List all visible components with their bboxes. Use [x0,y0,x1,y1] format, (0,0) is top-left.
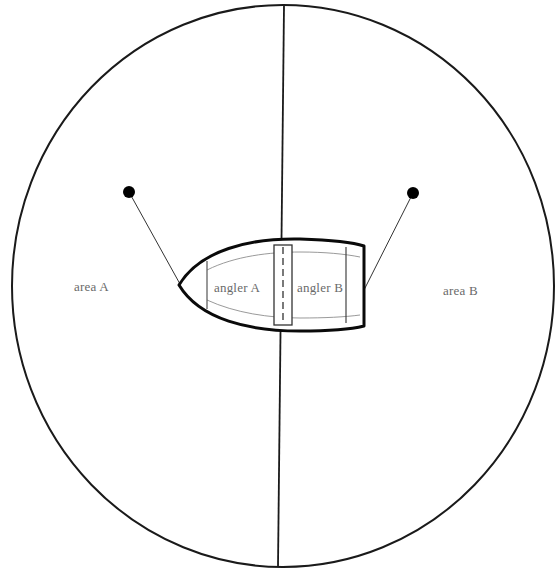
angler-b-label: angler B [297,281,343,294]
lure-dot-b [407,187,419,199]
lure-dot-a [123,186,135,198]
angler-a-label: angler A [214,281,260,294]
area-b-label: area B [443,284,478,297]
casting-line-b [364,193,413,290]
casting-line-a [129,192,180,284]
area-a-label: area A [74,280,109,293]
